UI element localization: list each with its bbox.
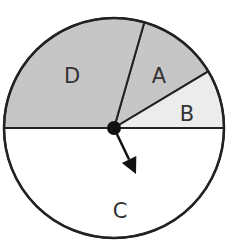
spinner-diagram: A B C D [0, 0, 234, 245]
section-label-b: B [180, 102, 194, 126]
section-label-d: D [64, 64, 80, 88]
section-label-a: A [152, 64, 167, 88]
spinner-pivot-icon [107, 121, 121, 135]
section-label-c: C [113, 199, 128, 223]
